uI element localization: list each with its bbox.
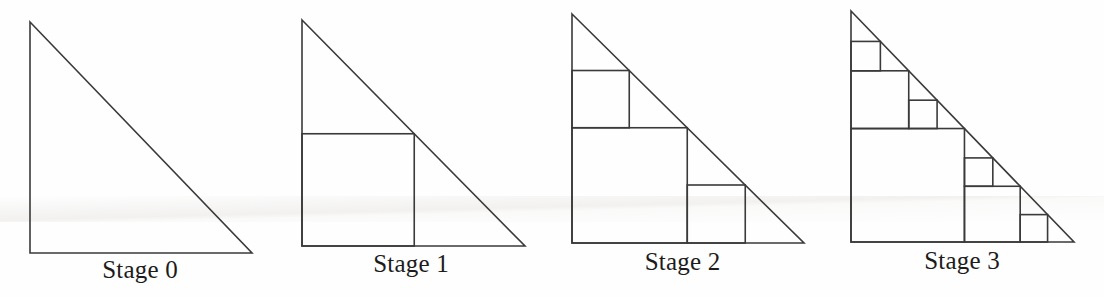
stage-label-1: Stage 1 — [280, 250, 542, 278]
figure-root: Stage 0Stage 1Stage 2Stage 3 — [0, 0, 1104, 297]
inscribed-squares-group — [572, 71, 745, 243]
stage-figure-0 — [0, 0, 280, 297]
inscribed-square — [851, 129, 964, 242]
inscribed-square — [1020, 215, 1047, 242]
inscribed-square — [964, 158, 992, 186]
stage-label-2: Stage 2 — [545, 248, 820, 276]
inscribed-square — [851, 71, 909, 129]
stage-label-0: Stage 0 — [0, 256, 280, 284]
inscribed-square — [851, 41, 880, 70]
stage-label-3: Stage 3 — [820, 247, 1104, 275]
inscribed-square — [909, 100, 937, 128]
triangle-outline — [30, 22, 252, 253]
inscribed-square — [572, 128, 687, 243]
triangle-outline — [851, 11, 1074, 242]
inscribed-square — [964, 186, 1020, 242]
inscribed-squares-group — [302, 134, 414, 246]
inscribed-square — [572, 71, 629, 128]
inscribed-square — [302, 134, 414, 246]
inscribed-squares-group — [851, 41, 1048, 242]
stage-panel-0: Stage 0 — [0, 0, 280, 297]
stage-panel-1: Stage 1 — [280, 0, 542, 297]
inscribed-square — [687, 185, 745, 243]
stage-panel-3: Stage 3 — [820, 0, 1104, 297]
stage-panel-2: Stage 2 — [545, 0, 820, 297]
